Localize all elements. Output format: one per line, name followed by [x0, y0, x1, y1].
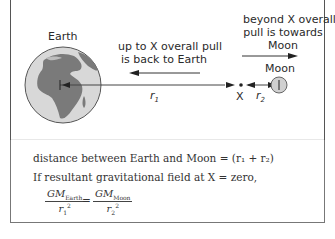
right-note-line3: Moon [243, 39, 323, 52]
right-note-line1: beyond X overall [243, 13, 323, 26]
formula-line-condition: If resultant gravitational field at X = … [33, 171, 257, 183]
left-note: up to X overall pull is back to Earth [118, 40, 210, 66]
left-note-line2: is back to Earth [118, 53, 210, 66]
x-label: X [236, 90, 244, 103]
r1-label: r1 [150, 89, 159, 107]
arrowhead-x-right-icon [246, 82, 255, 88]
fraction-moon: GMMoon r22 [93, 188, 132, 216]
moon-icon [271, 77, 287, 93]
earth-label: Earth [48, 30, 78, 43]
left-note-line1: up to X overall pull [118, 40, 210, 53]
right-note-line2: pull is towards [243, 26, 323, 39]
equals-sign: = [82, 194, 91, 206]
fraction-earth: GMEarth r12 [45, 188, 84, 216]
formula-line-distance: distance between Earth and Moon = (r₁ + … [33, 152, 274, 164]
right-note: beyond X overall pull is towards Moon [243, 13, 323, 52]
moon-label: Moon [265, 62, 295, 75]
arrow-right-icon [288, 53, 298, 59]
arrow-left-icon [129, 70, 139, 76]
arrowhead-x-left-icon [226, 82, 235, 88]
point-x-icon [239, 83, 243, 87]
r2-label: r2 [256, 89, 265, 107]
